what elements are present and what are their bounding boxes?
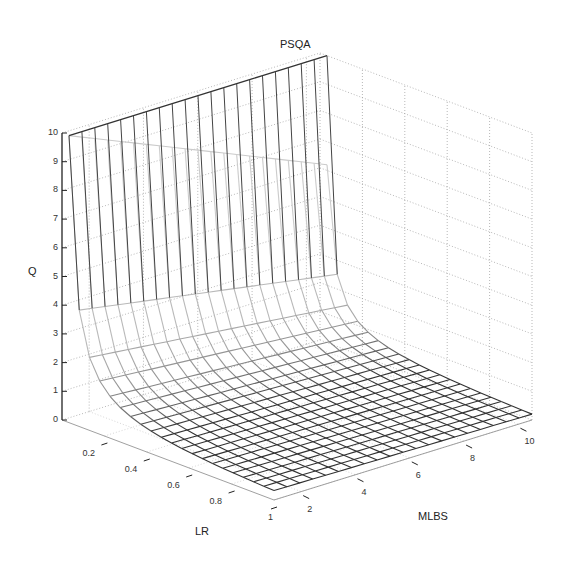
x-tick-label: 1 <box>268 512 273 522</box>
surface-plot <box>0 0 574 564</box>
z-tick-label: 7 <box>53 213 58 223</box>
z-tick-label: 9 <box>53 156 58 166</box>
y-tick-label: 10 <box>524 436 534 446</box>
y-tick-label: 4 <box>361 487 366 497</box>
z-tick-label: 8 <box>53 184 58 194</box>
x-axis-label: LR <box>195 525 209 537</box>
z-tick-label: 6 <box>53 242 58 252</box>
z-tick-label: 2 <box>53 357 58 367</box>
x-tick-label: 0.6 <box>167 480 180 490</box>
z-tick-label: 0 <box>53 414 58 424</box>
z-tick-label: 1 <box>53 385 58 395</box>
z-tick-label: 10 <box>48 127 58 137</box>
z-tick-label: 5 <box>53 271 58 281</box>
x-tick-label: 0.2 <box>82 448 95 458</box>
z-tick-label: 3 <box>53 328 58 338</box>
z-axis-label: Q <box>28 265 37 277</box>
y-axis-label: MLBS <box>418 510 448 522</box>
x-tick-label: 0.8 <box>210 496 223 506</box>
chart-title: PSQA <box>280 38 311 50</box>
y-tick-label: 6 <box>416 470 421 480</box>
z-tick-label: 4 <box>53 299 58 309</box>
x-tick-label: 0.4 <box>125 464 138 474</box>
y-tick-label: 8 <box>470 453 475 463</box>
y-tick-label: 2 <box>307 504 312 514</box>
